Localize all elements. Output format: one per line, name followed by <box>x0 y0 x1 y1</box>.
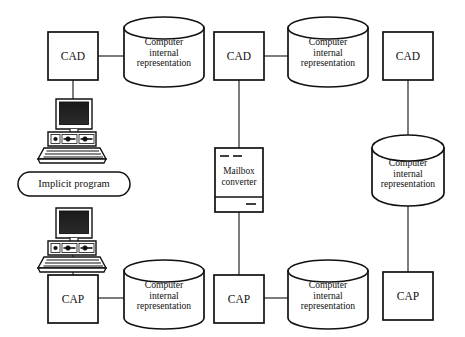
col3-shared-cylinder <box>372 135 444 206</box>
diagram-vector-layer <box>0 0 465 337</box>
col3-cap-box <box>383 272 433 320</box>
col1-cad-box <box>48 32 98 80</box>
col3-cad-box <box>383 32 433 80</box>
col2-cad-box <box>214 32 264 80</box>
mailbox-converter-box <box>215 148 263 212</box>
workstation-bottom-icon <box>38 208 106 272</box>
diagram-canvas: CAD Computer internal representation Imp… <box>0 0 465 337</box>
workstation-top-icon <box>38 99 106 163</box>
col2-cap-cylinder <box>288 260 368 329</box>
col1-cad-cylinder <box>124 17 204 87</box>
col1-cap-cylinder <box>124 260 204 329</box>
col1-cap-box <box>48 275 98 323</box>
implicit-program-pill <box>18 172 130 196</box>
col2-cad-cylinder <box>288 17 368 87</box>
col2-cap-box <box>214 275 264 323</box>
